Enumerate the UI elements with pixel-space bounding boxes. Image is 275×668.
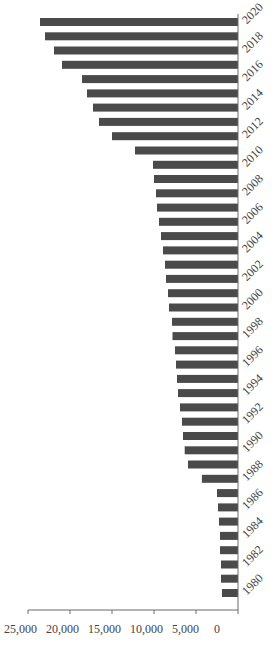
x-tick-label: 2012 (239, 114, 266, 141)
bar-1991 (183, 432, 238, 440)
bar-1990 (185, 446, 238, 454)
bar-1996 (176, 361, 238, 369)
bar-2010 (153, 161, 238, 169)
bar-2015 (87, 89, 238, 97)
bar-2016 (82, 75, 238, 83)
x-tick-label: 1990 (239, 428, 266, 455)
bar-2014 (93, 104, 238, 112)
y-tick-label: 25,000 (4, 622, 37, 636)
bar-2001 (168, 289, 238, 297)
bar-1998 (173, 332, 239, 340)
bar-1987 (217, 489, 238, 497)
bar-2013 (99, 118, 238, 126)
x-tick-label: 1994 (239, 371, 266, 398)
bar-1981 (221, 575, 238, 583)
bar-1982 (221, 561, 238, 569)
bar-1999 (172, 318, 238, 326)
bar-chart: 05,00010,00015,00020,00025,000 198019821… (0, 0, 275, 668)
bar-1989 (188, 461, 238, 469)
x-tick-label: 2004 (239, 228, 266, 255)
x-tick-label: 1998 (239, 314, 266, 341)
y-tick-label: 0 (214, 622, 220, 636)
bar-2000 (169, 304, 238, 312)
bar-2017 (62, 61, 238, 69)
x-tick-label: 1986 (239, 485, 266, 512)
bar-1984 (220, 532, 238, 540)
chart-canvas: 05,00010,00015,00020,00025,000 198019821… (0, 0, 275, 668)
bar-2009 (154, 175, 238, 183)
x-tick-label: 2008 (239, 171, 266, 198)
x-tick-label: 2010 (239, 143, 266, 170)
y-tick-label: 5,000 (172, 622, 199, 636)
bar-2007 (157, 204, 238, 212)
x-tick-label: 1992 (239, 400, 266, 427)
bar-1993 (180, 403, 238, 411)
bar-2003 (165, 261, 238, 269)
bar-1994 (178, 389, 238, 397)
bar-2002 (166, 275, 238, 283)
bar-2004 (163, 246, 238, 254)
bar-2011 (135, 147, 238, 155)
x-tick-label: 1982 (239, 543, 266, 570)
y-axis-ticks: 05,00010,00015,00020,00025,000 (4, 610, 238, 636)
bar-1995 (177, 375, 238, 383)
bar-1992 (182, 418, 238, 426)
bar-1980 (222, 589, 238, 597)
bar-2008 (156, 189, 238, 197)
bar-1986 (218, 503, 238, 511)
bar-2006 (159, 218, 238, 226)
y-tick-label: 10,000 (130, 622, 163, 636)
y-tick-label: 20,000 (46, 622, 79, 636)
x-tick-label: 2000 (239, 286, 266, 313)
bar-series (40, 18, 238, 597)
x-tick-label: 2018 (239, 29, 266, 56)
bar-1985 (219, 518, 238, 526)
bar-2020 (40, 18, 238, 26)
x-tick-label: 1996 (239, 343, 266, 370)
x-tick-label: 2006 (239, 200, 266, 227)
bar-1988 (202, 475, 238, 483)
x-tick-label: 1984 (239, 514, 266, 541)
bar-2019 (45, 32, 238, 40)
bar-1997 (175, 346, 238, 354)
bar-2018 (54, 47, 238, 55)
x-tick-label: 2016 (239, 57, 266, 84)
x-tick-label: 1980 (239, 571, 266, 598)
bar-1983 (220, 546, 238, 554)
y-tick-label: 15,000 (88, 622, 121, 636)
bar-2012 (112, 132, 238, 140)
x-axis-ticks: 1980198219841986198819901992199419961998… (239, 0, 266, 598)
x-tick-label: 2014 (239, 86, 266, 113)
x-tick-label: 1988 (239, 457, 266, 484)
x-tick-label: 2002 (239, 257, 266, 284)
bar-2005 (161, 232, 238, 240)
x-tick-label: 2020 (239, 0, 266, 27)
